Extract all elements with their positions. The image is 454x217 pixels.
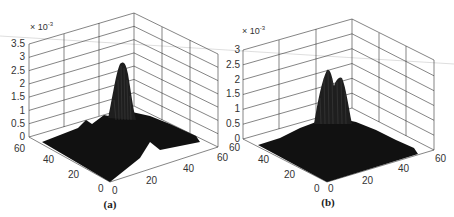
surface-b [258,70,418,182]
svg-text:0: 0 [328,183,334,194]
surface-plot-a: × 10-3 3.5 3 2.5 2 1.5 1 0.5 0 60 40 20 … [11,13,228,211]
svg-text:3: 3 [19,51,25,62]
svg-text:1.5: 1.5 [226,88,240,99]
z-axis-b: × 10-3 3 2.5 2 1.5 1 0.5 0 [226,25,266,144]
svg-text:0.5: 0.5 [226,118,240,129]
svg-text:3.5: 3.5 [11,38,25,49]
caption-b: (b) [321,196,335,209]
svg-text:2: 2 [234,74,240,85]
svg-text:60: 60 [229,142,241,153]
svg-text:0.5: 0.5 [11,118,25,129]
svg-text:2: 2 [19,78,25,89]
svg-text:0: 0 [98,183,104,194]
z-scale-label-a: × 10-3 [30,21,54,32]
svg-text:2.5: 2.5 [226,59,240,70]
svg-text:40: 40 [258,154,270,165]
svg-text:0: 0 [314,183,320,194]
svg-text:2.5: 2.5 [11,65,25,76]
surface-plot-b: × 10-3 3 2.5 2 1.5 1 0.5 0 60 40 20 0 0 … [226,19,446,209]
svg-text:20: 20 [284,169,296,180]
caption-a: (a) [104,198,117,211]
svg-text:60: 60 [435,153,447,164]
svg-text:1.5: 1.5 [11,91,25,102]
z-scale-label-b: × 10-3 [242,25,266,36]
svg-text:1: 1 [19,105,25,116]
svg-text:0: 0 [19,131,25,142]
svg-text:60: 60 [217,152,229,163]
svg-text:0: 0 [112,185,118,196]
surface-a [42,62,200,182]
svg-text:3: 3 [234,44,240,55]
svg-text:40: 40 [398,163,410,174]
svg-text:1: 1 [234,103,240,114]
svg-text:20: 20 [68,169,80,180]
svg-text:20: 20 [362,175,374,186]
svg-text:60: 60 [14,143,26,154]
figure: × 10-3 3.5 3 2.5 2 1.5 1 0.5 0 60 40 20 … [0,0,454,217]
svg-text:40: 40 [43,154,55,165]
svg-text:20: 20 [146,175,158,186]
svg-text:40: 40 [183,163,195,174]
